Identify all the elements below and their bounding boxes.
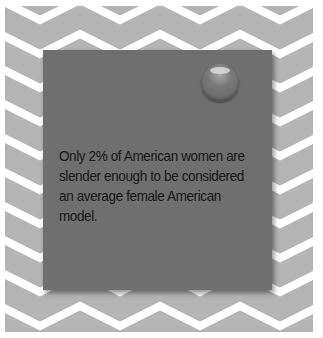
fact-card: Only 2% of American women are slender en…: [43, 50, 272, 290]
fact-text: Only 2% of American women are slender en…: [59, 146, 254, 226]
pushpin-icon: [201, 64, 239, 102]
